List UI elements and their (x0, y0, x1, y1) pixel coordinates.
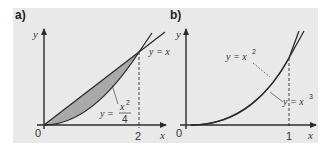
panel-a-lower-curve-label-num: x (119, 101, 125, 112)
panel-a-lower-curve-label-lhs: y = (99, 108, 114, 119)
panel-b-lower-curve-label-exp: 3 (309, 93, 313, 100)
panel-b-lower-curve-label-text: y = x (282, 96, 304, 107)
panel-b-tick-label: 1 (286, 130, 292, 142)
panel-a-lower-curve-label-den: 4 (122, 114, 128, 125)
panel-b-upper-curve-label-text: y = x (225, 51, 247, 62)
panel-a-y-axis-label: y (32, 28, 38, 40)
panel-b-label: b) (170, 8, 181, 22)
panel-b-upper-curve-label-exp: 2 (252, 48, 256, 55)
panel-a-x-axis-label: x (159, 129, 165, 141)
panel-b-origin-label: 0 (176, 127, 182, 139)
panel-a-label: a) (15, 8, 26, 22)
panel-a-origin-label: 0 (35, 127, 41, 139)
figure: a) y x 0 2 y = x y = x 2 4 b) (0, 0, 330, 149)
panel-b-y-axis-label: y (175, 28, 181, 40)
panel-a-tick-label: 2 (135, 130, 141, 142)
panel-b-x-axis-label: x (307, 129, 313, 141)
panel-a-lower-curve-label-exp: 2 (126, 99, 130, 106)
panel-a-upper-curve-label: y = x (148, 46, 170, 57)
